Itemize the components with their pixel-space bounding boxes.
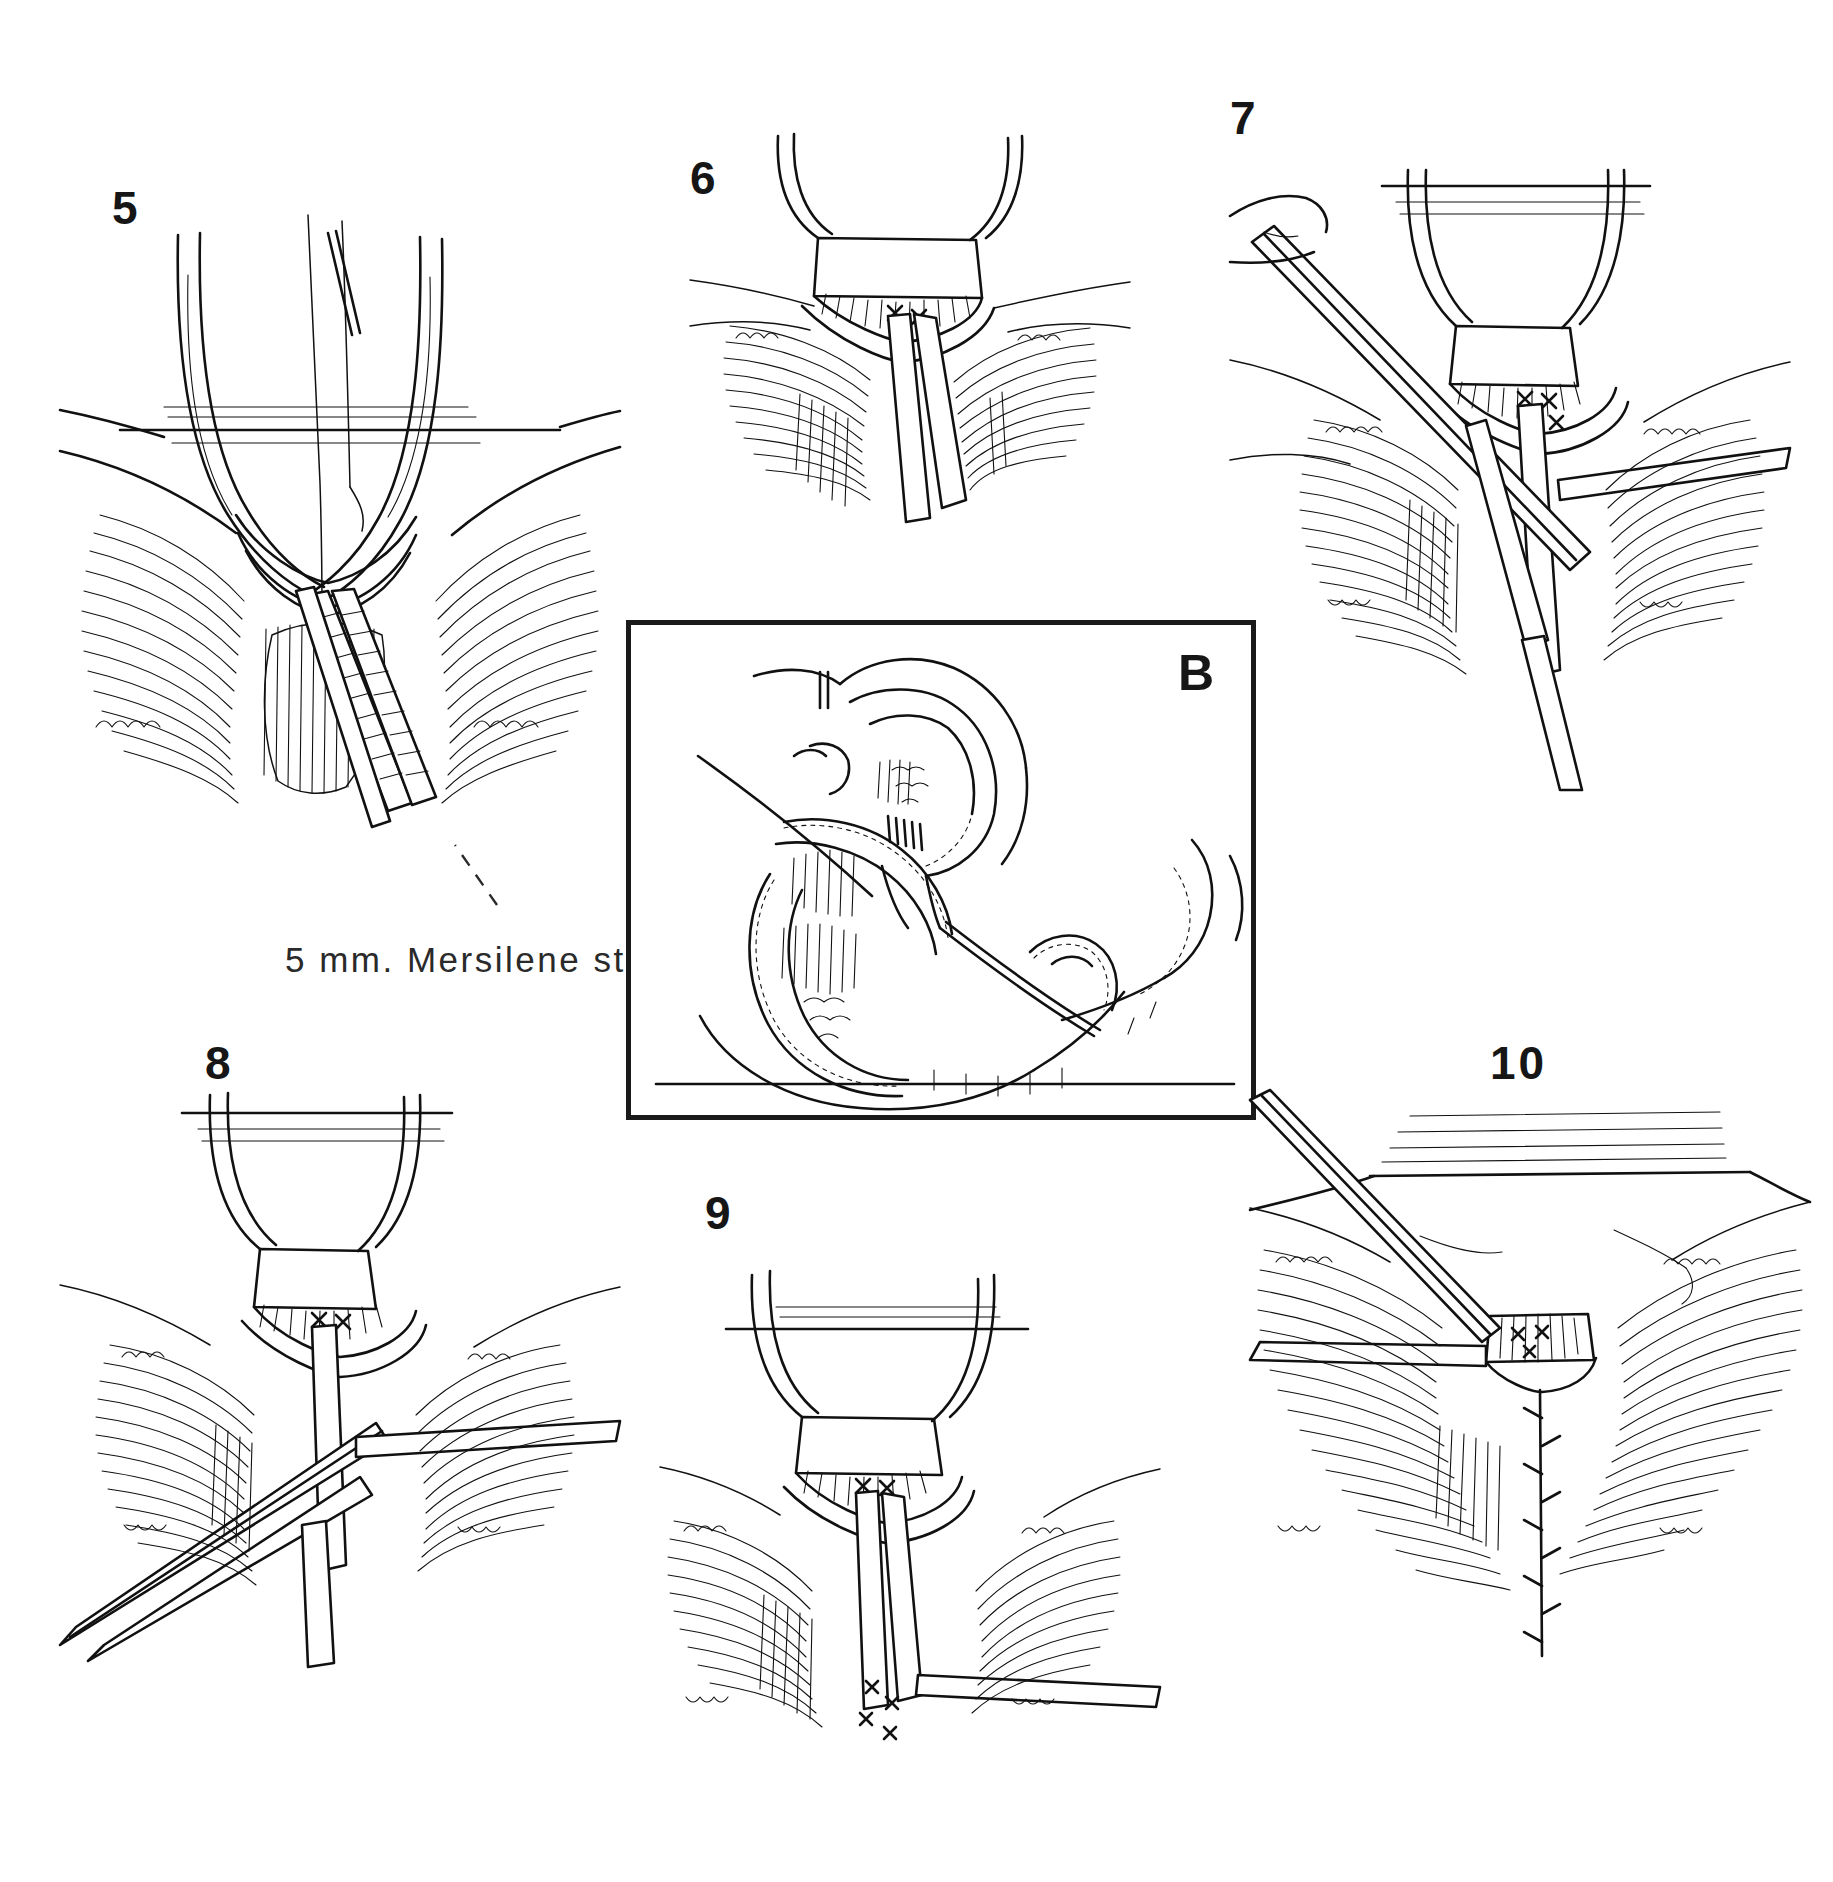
panel-9-number: 9 <box>705 1190 734 1236</box>
panel-5-artwork <box>60 215 620 855</box>
panel-6-artwork <box>690 130 1130 560</box>
panel-7-number: 7 <box>1230 95 1259 141</box>
illustration-plate: 5 <box>0 0 1833 1882</box>
panel-8-number: 8 <box>205 1040 234 1086</box>
inset-b-artwork <box>634 628 1248 1112</box>
panel-10-number: 10 <box>1490 1040 1547 1086</box>
panel-7-artwork <box>1230 170 1790 790</box>
mersilene-strip-caption: 5 mm. Mersilene strip <box>285 940 672 980</box>
leader-path <box>455 845 497 905</box>
panel-10-artwork <box>1250 1090 1810 1690</box>
panel-8-artwork <box>60 1085 620 1685</box>
panel-9-artwork <box>660 1235 1160 1775</box>
